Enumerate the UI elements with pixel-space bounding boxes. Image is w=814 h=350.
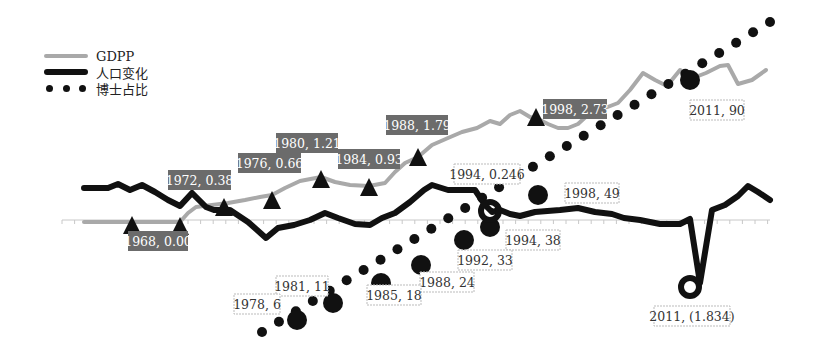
gray-line-swatch-icon: [44, 48, 88, 64]
data-label-text: 1985, 18: [366, 288, 422, 303]
dot-point: [443, 213, 453, 223]
dot-point: [359, 265, 369, 275]
data-label-text: 2011, (1.834): [649, 309, 734, 324]
data-label-text: 1994, 0.246: [449, 167, 525, 182]
circle-marker-icon: [680, 70, 700, 90]
legend-label: 博士占比: [96, 79, 148, 98]
data-label-text: 2011, 90: [689, 103, 745, 118]
data-label-text: 1994, 38: [505, 233, 561, 248]
data-label-text: 1972, 0.38: [166, 173, 234, 188]
data-label-text: 1968, 0.00: [124, 234, 192, 249]
dot-point: [613, 110, 623, 120]
dot-point: [342, 275, 352, 285]
dot-point: [562, 141, 572, 151]
circle-marker-icon: [454, 230, 474, 250]
data-label-text: 1984, 0.93: [335, 152, 403, 167]
dot-point: [596, 120, 606, 130]
circle-marker-icon: [528, 185, 548, 205]
dot-point: [579, 131, 589, 141]
data-label-text: 1981, 11: [274, 279, 330, 294]
data-label-text: 1976, 0.66: [236, 156, 304, 171]
data-label-text: 1988, 1.79: [383, 118, 451, 133]
dot-point: [274, 317, 284, 327]
data-label-text: 1998, 49: [564, 186, 620, 201]
dot-point: [748, 27, 758, 37]
dot-point: [460, 203, 470, 213]
dot-point: [376, 255, 386, 265]
dot-point: [528, 162, 538, 172]
dot-point: [765, 17, 775, 27]
data-label-text: 1992, 33: [457, 253, 513, 268]
dotted-line-swatch-icon: [44, 80, 88, 96]
data-label-text: 1978, 6: [233, 297, 281, 312]
dot-point: [697, 58, 707, 68]
black-line-swatch-icon: [44, 64, 88, 80]
dot-point: [731, 38, 741, 48]
dot-point: [630, 100, 640, 110]
dot-point: [646, 89, 656, 99]
dot-point: [308, 296, 318, 306]
dot-point: [663, 79, 673, 89]
dot-point: [426, 224, 436, 234]
data-label-text: 1988, 24: [419, 275, 475, 290]
circle-marker-icon: [287, 310, 307, 330]
legend-label: GDPP: [96, 49, 134, 64]
dot-point: [257, 327, 267, 337]
dot-point: [714, 48, 724, 58]
dot-point: [409, 234, 419, 244]
dot-point: [392, 244, 402, 254]
dot-point: [545, 151, 555, 161]
ring-marker-icon: [681, 278, 699, 296]
legend-item-phd-ratio: 博士占比: [44, 80, 148, 96]
legend: GDPP 人口变化 博士占比: [44, 48, 148, 96]
data-label-text: 1980, 1.21: [273, 136, 341, 151]
data-label-text: 1998, 2.73: [541, 102, 609, 117]
